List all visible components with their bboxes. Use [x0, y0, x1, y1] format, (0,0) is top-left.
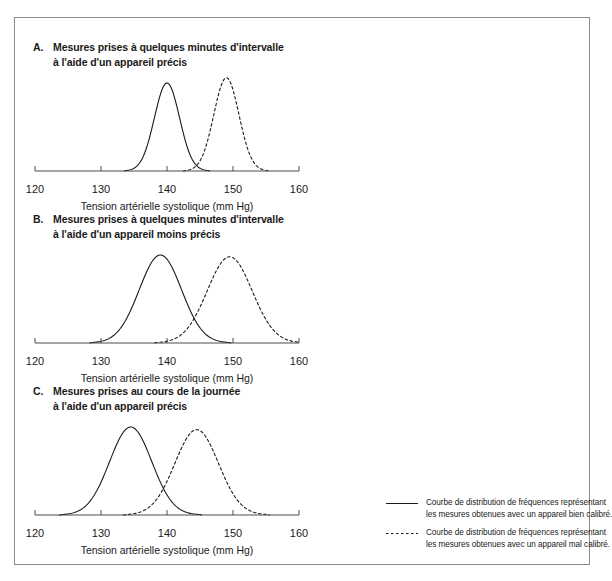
legend-dashed-line-icon: [386, 527, 418, 540]
panel-a-plot: [21, 68, 311, 180]
panel-c-heading: C. Mesures prises au cours de la journée…: [33, 384, 240, 413]
legend-dashed-line1: Courbe de distribution de fréquences rep…: [426, 528, 606, 537]
panel-c-letter: C.: [33, 384, 53, 399]
panel-b-axis-title: Tension artérielle systolique (mm Hg): [81, 372, 254, 384]
panel-c-tick-150: 150: [224, 527, 242, 539]
panel-c-tick-140: 140: [158, 527, 176, 539]
legend-dashed-line2: les mesures obtenues avec un appareil ma…: [426, 540, 610, 549]
panel-c-tick-130: 130: [92, 527, 110, 539]
panel-b-plot: [21, 240, 311, 352]
panel-a-tick-150: 150: [224, 183, 242, 195]
panel-b-letter: B.: [33, 212, 53, 227]
panel-b-title-line2: à l'aide d'un appareil moins précis: [53, 227, 284, 242]
panel-b-tick-160: 160: [290, 355, 308, 367]
panel-c-tick-120: 120: [26, 527, 44, 539]
panel-a-title-line2: à l'aide d'un appareil précis: [53, 55, 284, 70]
panel-b-tick-120: 120: [26, 355, 44, 367]
panel-a-tick-140: 140: [158, 183, 176, 195]
panel-c-title-line1: Mesures prises au cours de la journée: [53, 384, 240, 399]
panel-a-tick-130: 130: [92, 183, 110, 195]
panel-a-tick-120: 120: [26, 183, 44, 195]
legend-entry-dashed: Courbe de distribution de fréquences rep…: [386, 527, 586, 550]
panel-c-title-line2: à l'aide d'un appareil précis: [53, 399, 240, 414]
panel-b-heading: B. Mesures prises à quelques minutes d'i…: [33, 212, 284, 241]
panel-a-axis-title: Tension artérielle systolique (mm Hg): [81, 200, 254, 212]
legend-solid-line-icon: [386, 497, 418, 510]
panel-c-tick-160: 160: [290, 527, 308, 539]
panel-a-title-line1: Mesures prises à quelques minutes d'inte…: [53, 40, 284, 55]
panel-c-title: Mesures prises au cours de la journée à …: [53, 384, 240, 413]
panel-c-curves: [21, 412, 311, 524]
panel-b-curves: [21, 240, 311, 352]
panel-a-heading: A. Mesures prises à quelques minutes d'i…: [33, 40, 284, 69]
legend: Courbe de distribution de fréquences rep…: [386, 497, 586, 557]
panel-b-tick-150: 150: [224, 355, 242, 367]
legend-solid-line2: les mesures obtenues avec un appareil bi…: [426, 510, 612, 519]
legend-solid-text: Courbe de distribution de fréquences rep…: [426, 497, 612, 520]
panel-c-axis-title: Tension artérielle systolique (mm Hg): [81, 544, 254, 556]
panel-b-tick-140: 140: [158, 355, 176, 367]
legend-solid-line1: Courbe de distribution de fréquences rep…: [426, 498, 606, 507]
panel-a-title: Mesures prises à quelques minutes d'inte…: [53, 40, 284, 69]
panel-b-title: Mesures prises à quelques minutes d'inte…: [53, 212, 284, 241]
legend-dashed-text: Courbe de distribution de fréquences rep…: [426, 527, 610, 550]
panel-a-tick-160: 160: [290, 183, 308, 195]
panel-b-title-line1: Mesures prises à quelques minutes d'inte…: [53, 212, 284, 227]
panel-b-tick-130: 130: [92, 355, 110, 367]
panel-a-letter: A.: [33, 40, 53, 55]
panel-a-curves: [21, 68, 311, 180]
legend-entry-solid: Courbe de distribution de fréquences rep…: [386, 497, 586, 520]
panel-c-plot: [21, 412, 311, 524]
figure-frame: A. Mesures prises à quelques minutes d'i…: [14, 17, 590, 565]
